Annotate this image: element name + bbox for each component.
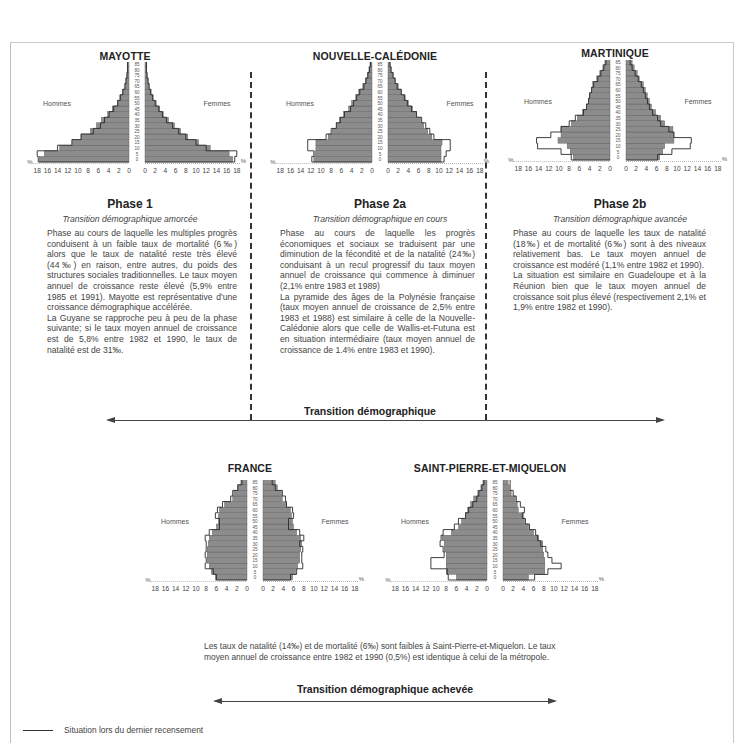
svg-text:%: % bbox=[145, 577, 151, 583]
country-title-nouvelle-caledonie: NOUVELLE-CALÉDONIE bbox=[290, 50, 460, 62]
svg-text:10: 10 bbox=[432, 585, 440, 592]
svg-text:10: 10 bbox=[252, 564, 258, 569]
svg-text:8: 8 bbox=[444, 585, 448, 592]
phase-2b-para-2: La situation est similaire en Guadeloupe… bbox=[513, 270, 706, 312]
svg-text:10: 10 bbox=[192, 167, 200, 174]
legend-outline-swatch bbox=[23, 730, 53, 731]
svg-text:16: 16 bbox=[581, 585, 589, 592]
country-title-france: FRANCE bbox=[200, 462, 300, 474]
svg-text:14: 14 bbox=[535, 165, 543, 172]
svg-text:20: 20 bbox=[134, 135, 140, 140]
svg-text:16: 16 bbox=[44, 167, 52, 174]
svg-text:0: 0 bbox=[261, 585, 265, 592]
svg-text:12: 12 bbox=[446, 167, 454, 174]
svg-text:65: 65 bbox=[377, 84, 383, 89]
svg-text:60: 60 bbox=[377, 90, 383, 95]
svg-text:8: 8 bbox=[329, 167, 333, 174]
pyramid-martinique: HommesFemmesans0510152025303540455055606… bbox=[500, 60, 736, 190]
svg-text:40: 40 bbox=[615, 110, 621, 115]
svg-text:35: 35 bbox=[377, 118, 383, 123]
svg-text:6: 6 bbox=[97, 167, 101, 174]
svg-text:6: 6 bbox=[578, 165, 582, 172]
column-separator-right bbox=[485, 72, 487, 420]
svg-text:80: 80 bbox=[134, 68, 140, 73]
svg-text:75: 75 bbox=[615, 71, 621, 76]
svg-text:80: 80 bbox=[615, 66, 621, 71]
svg-text:15: 15 bbox=[377, 140, 383, 145]
svg-text:0: 0 bbox=[254, 575, 257, 580]
label-femmes: Femmes bbox=[321, 518, 349, 525]
svg-text:18: 18 bbox=[233, 167, 241, 174]
svg-text:14: 14 bbox=[456, 167, 464, 174]
svg-text:85: 85 bbox=[252, 480, 258, 485]
svg-text:65: 65 bbox=[492, 502, 498, 507]
svg-text:30: 30 bbox=[377, 124, 383, 129]
svg-text:14: 14 bbox=[412, 585, 420, 592]
svg-text:45: 45 bbox=[492, 525, 498, 530]
svg-text:12: 12 bbox=[64, 167, 72, 174]
svg-text:80: 80 bbox=[492, 486, 498, 491]
svg-text:12: 12 bbox=[545, 165, 553, 172]
svg-text:0: 0 bbox=[127, 167, 131, 174]
phase-1-description: Phase au cours de laquelle les multiples… bbox=[47, 228, 237, 355]
svg-text:50: 50 bbox=[134, 101, 140, 106]
svg-text:%: % bbox=[270, 159, 276, 165]
column-separator-left bbox=[250, 72, 252, 420]
svg-text:5: 5 bbox=[617, 150, 620, 155]
svg-text:4: 4 bbox=[107, 167, 111, 174]
svg-text:6: 6 bbox=[455, 585, 459, 592]
svg-text:10: 10 bbox=[310, 585, 318, 592]
svg-text:15: 15 bbox=[252, 558, 258, 563]
label-femmes: Femmes bbox=[684, 98, 712, 105]
transition-arrow bbox=[108, 420, 663, 421]
svg-text:12: 12 bbox=[321, 585, 329, 592]
svg-text:4: 4 bbox=[645, 165, 649, 172]
svg-text:14: 14 bbox=[172, 585, 180, 592]
svg-text:10: 10 bbox=[74, 167, 82, 174]
svg-text:45: 45 bbox=[615, 105, 621, 110]
svg-text:12: 12 bbox=[684, 165, 692, 172]
svg-text:40: 40 bbox=[134, 112, 140, 117]
svg-text:55: 55 bbox=[615, 94, 621, 99]
svg-text:80: 80 bbox=[252, 486, 258, 491]
svg-text:10: 10 bbox=[435, 167, 443, 174]
svg-text:40: 40 bbox=[252, 530, 258, 535]
pyramid-france: HommesFemmesans0510152025303540455055606… bbox=[140, 480, 370, 610]
svg-text:18: 18 bbox=[34, 167, 42, 174]
svg-text:70: 70 bbox=[492, 497, 498, 502]
label-hommes: Hommes bbox=[43, 100, 72, 107]
svg-text:6: 6 bbox=[215, 585, 219, 592]
svg-text:4: 4 bbox=[588, 165, 592, 172]
svg-text:60: 60 bbox=[252, 508, 258, 513]
svg-text:35: 35 bbox=[492, 536, 498, 541]
svg-text:0: 0 bbox=[245, 585, 249, 592]
svg-text:85: 85 bbox=[492, 480, 498, 485]
legend-label: Situation lors du dernier recensement bbox=[64, 725, 203, 735]
svg-text:25: 25 bbox=[377, 129, 383, 134]
svg-text:10: 10 bbox=[134, 146, 140, 151]
svg-text:40: 40 bbox=[492, 530, 498, 535]
svg-text:6: 6 bbox=[174, 167, 178, 174]
svg-text:45: 45 bbox=[377, 107, 383, 112]
svg-text:18: 18 bbox=[392, 585, 400, 592]
svg-text:65: 65 bbox=[134, 84, 140, 89]
svg-text:45: 45 bbox=[134, 107, 140, 112]
svg-text:10: 10 bbox=[192, 585, 200, 592]
svg-text:12: 12 bbox=[182, 585, 190, 592]
svg-text:4: 4 bbox=[407, 167, 411, 174]
svg-text:70: 70 bbox=[134, 79, 140, 84]
svg-text:10: 10 bbox=[550, 585, 558, 592]
svg-text:2: 2 bbox=[598, 165, 602, 172]
svg-text:15: 15 bbox=[615, 138, 621, 143]
svg-text:4: 4 bbox=[522, 585, 526, 592]
svg-text:8: 8 bbox=[302, 585, 306, 592]
svg-text:5: 5 bbox=[136, 152, 139, 157]
svg-text:0: 0 bbox=[494, 575, 497, 580]
pyramid-nouvelle-caledonie: HommesFemmesans0510152025303540455055606… bbox=[260, 62, 500, 192]
svg-text:65: 65 bbox=[252, 502, 258, 507]
svg-text:%: % bbox=[508, 157, 514, 163]
svg-text:2: 2 bbox=[117, 167, 121, 174]
svg-text:8: 8 bbox=[542, 585, 546, 592]
svg-text:60: 60 bbox=[492, 508, 498, 513]
svg-text:25: 25 bbox=[615, 127, 621, 132]
